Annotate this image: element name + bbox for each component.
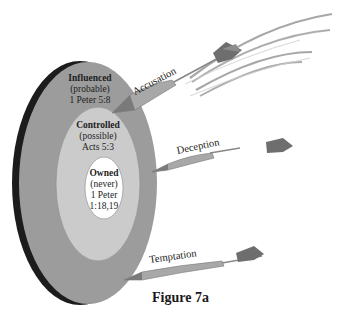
inner-ring-qualifier: (never) [80, 179, 128, 190]
outer-ring-label: Influenced (probable) 1 Peter 5:8 [58, 73, 122, 106]
outer-ring-reference: 1 Peter 5:8 [58, 95, 122, 106]
inner-ring-reference-1: 1 Peter [80, 190, 128, 201]
accusation-dart [112, 42, 242, 113]
inner-ring-reference-2: 1:18,19 [80, 201, 128, 212]
inner-ring-label: Owned (never) 1 Peter 1:18,19 [80, 168, 128, 212]
outer-ring-title: Influenced [58, 73, 122, 84]
outer-ring-qualifier: (probable) [58, 84, 122, 95]
middle-ring-qualifier: (possible) [66, 131, 130, 142]
middle-ring-label: Controlled (possible) Acts 5:3 [66, 120, 130, 153]
inner-ring-title: Owned [80, 168, 128, 179]
middle-ring-reference: Acts 5:3 [66, 142, 130, 153]
figure-caption: Figure 7a [152, 290, 209, 306]
motion-trails [185, 14, 332, 96]
deception-dart [152, 138, 293, 172]
middle-ring-title: Controlled [66, 120, 130, 131]
target-diagram [0, 0, 341, 318]
